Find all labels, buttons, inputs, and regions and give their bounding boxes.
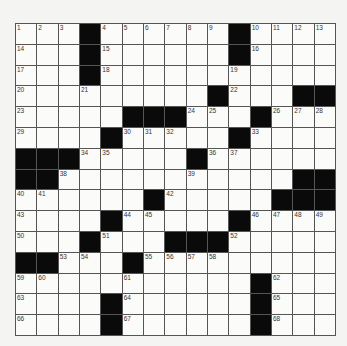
grid-cell[interactable] [165, 149, 185, 169]
grid-cell[interactable] [80, 107, 100, 127]
grid-cell[interactable]: 6 [144, 24, 164, 44]
grid-cell[interactable] [208, 211, 228, 231]
grid-cell[interactable]: 68 [272, 315, 292, 335]
grid-cell[interactable] [144, 86, 164, 106]
grid-cell[interactable] [187, 294, 207, 314]
grid-cell[interactable]: 43 [16, 211, 36, 231]
grid-cell[interactable]: 56 [165, 253, 185, 273]
grid-cell[interactable] [101, 190, 121, 210]
grid-cell[interactable]: 41 [37, 190, 57, 210]
grid-cell[interactable] [208, 170, 228, 190]
grid-cell[interactable] [165, 86, 185, 106]
grid-cell[interactable]: 11 [272, 24, 292, 44]
grid-cell[interactable] [165, 274, 185, 294]
grid-cell[interactable] [187, 128, 207, 148]
grid-cell[interactable] [101, 253, 121, 273]
grid-cell[interactable]: 55 [144, 253, 164, 273]
grid-cell[interactable] [123, 232, 143, 252]
grid-cell[interactable] [187, 86, 207, 106]
grid-cell[interactable] [272, 128, 292, 148]
grid-cell[interactable] [229, 170, 249, 190]
grid-cell[interactable] [37, 66, 57, 86]
grid-cell[interactable] [251, 232, 271, 252]
grid-cell[interactable] [293, 66, 313, 86]
grid-cell[interactable]: 59 [16, 274, 36, 294]
grid-cell[interactable] [37, 128, 57, 148]
grid-cell[interactable]: 15 [101, 45, 121, 65]
grid-cell[interactable] [59, 315, 79, 335]
grid-cell[interactable]: 37 [229, 149, 249, 169]
grid-cell[interactable]: 35 [101, 149, 121, 169]
grid-cell[interactable]: 39 [187, 170, 207, 190]
grid-cell[interactable]: 9 [208, 24, 228, 44]
grid-cell[interactable] [272, 149, 292, 169]
grid-cell[interactable]: 5 [123, 24, 143, 44]
grid-cell[interactable] [144, 45, 164, 65]
grid-cell[interactable] [293, 232, 313, 252]
grid-cell[interactable] [208, 190, 228, 210]
grid-cell[interactable] [293, 253, 313, 273]
grid-cell[interactable]: 65 [272, 294, 292, 314]
grid-cell[interactable]: 33 [251, 128, 271, 148]
grid-cell[interactable] [187, 315, 207, 335]
grid-cell[interactable] [165, 315, 185, 335]
grid-cell[interactable] [208, 274, 228, 294]
grid-cell[interactable]: 27 [293, 107, 313, 127]
grid-cell[interactable] [229, 294, 249, 314]
grid-cell[interactable]: 48 [293, 211, 313, 231]
grid-cell[interactable]: 28 [315, 107, 335, 127]
grid-cell[interactable] [272, 253, 292, 273]
grid-cell[interactable] [80, 274, 100, 294]
grid-cell[interactable] [80, 128, 100, 148]
grid-cell[interactable] [80, 170, 100, 190]
grid-cell[interactable] [315, 45, 335, 65]
grid-cell[interactable] [251, 66, 271, 86]
grid-cell[interactable] [165, 211, 185, 231]
grid-cell[interactable] [293, 294, 313, 314]
grid-cell[interactable] [37, 45, 57, 65]
grid-cell[interactable]: 34 [80, 149, 100, 169]
grid-cell[interactable] [123, 149, 143, 169]
grid-cell[interactable]: 21 [80, 86, 100, 106]
grid-cell[interactable]: 31 [144, 128, 164, 148]
grid-cell[interactable] [251, 170, 271, 190]
grid-cell[interactable] [165, 170, 185, 190]
grid-cell[interactable] [251, 149, 271, 169]
grid-cell[interactable] [144, 315, 164, 335]
grid-cell[interactable] [37, 315, 57, 335]
grid-cell[interactable] [315, 128, 335, 148]
grid-cell[interactable]: 23 [16, 107, 36, 127]
grid-cell[interactable]: 64 [123, 294, 143, 314]
grid-cell[interactable] [187, 274, 207, 294]
grid-cell[interactable] [187, 45, 207, 65]
grid-cell[interactable]: 62 [272, 274, 292, 294]
grid-cell[interactable] [123, 45, 143, 65]
grid-cell[interactable] [251, 86, 271, 106]
grid-cell[interactable] [272, 86, 292, 106]
grid-cell[interactable] [293, 315, 313, 335]
grid-cell[interactable]: 32 [165, 128, 185, 148]
grid-cell[interactable] [165, 45, 185, 65]
grid-cell[interactable]: 53 [59, 253, 79, 273]
grid-cell[interactable]: 7 [165, 24, 185, 44]
grid-cell[interactable]: 8 [187, 24, 207, 44]
grid-cell[interactable] [59, 107, 79, 127]
grid-cell[interactable] [123, 190, 143, 210]
grid-cell[interactable]: 2 [37, 24, 57, 44]
grid-cell[interactable] [315, 232, 335, 252]
grid-cell[interactable] [315, 253, 335, 273]
grid-cell[interactable] [251, 190, 271, 210]
grid-cell[interactable] [59, 294, 79, 314]
grid-cell[interactable] [123, 66, 143, 86]
grid-cell[interactable] [229, 253, 249, 273]
grid-cell[interactable] [293, 45, 313, 65]
grid-cell[interactable]: 63 [16, 294, 36, 314]
grid-cell[interactable]: 10 [251, 24, 271, 44]
grid-cell[interactable] [315, 66, 335, 86]
grid-cell[interactable] [37, 211, 57, 231]
grid-cell[interactable] [37, 232, 57, 252]
grid-cell[interactable]: 16 [251, 45, 271, 65]
grid-cell[interactable] [315, 149, 335, 169]
grid-cell[interactable]: 45 [144, 211, 164, 231]
grid-cell[interactable]: 46 [251, 211, 271, 231]
